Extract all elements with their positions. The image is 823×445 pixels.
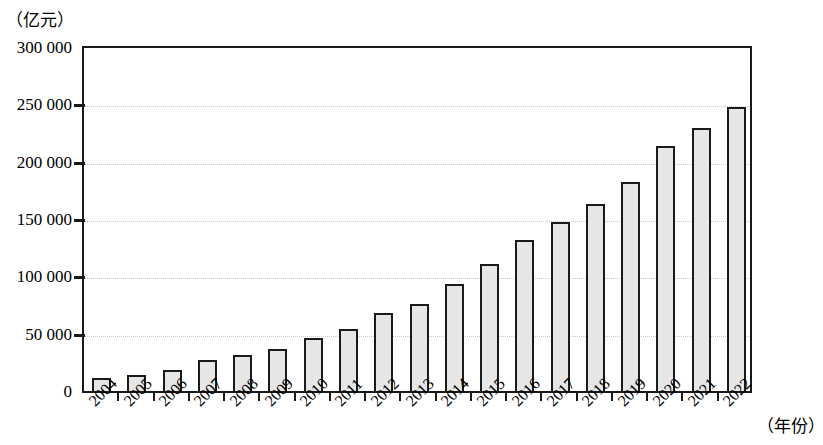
bar	[480, 264, 499, 393]
y-axis-tick-label: 250 000	[17, 96, 72, 113]
y-axis-tick	[74, 219, 85, 222]
bar	[621, 182, 640, 393]
y-axis-tick	[74, 162, 85, 165]
bar	[515, 240, 534, 393]
bar	[692, 128, 711, 393]
bar	[551, 222, 570, 393]
y-axis-tick-label: 50 000	[25, 326, 72, 343]
y-axis-tick-label: 200 000	[17, 154, 72, 171]
bar	[727, 107, 746, 393]
y-axis-tick-label: 0	[64, 383, 73, 400]
x-axis-title: （年份）	[757, 412, 823, 437]
y-axis-tick-label: 300 000	[17, 39, 72, 56]
y-axis-tick-labels: 050 000100 000150 000200 000250 000300 0…	[0, 0, 72, 445]
bar	[586, 204, 605, 393]
y-axis-tick	[74, 276, 85, 279]
bars-layer	[84, 48, 754, 395]
y-axis-tick-label: 100 000	[17, 268, 72, 285]
y-axis-tick-label: 150 000	[17, 211, 72, 228]
plot-area	[82, 46, 752, 393]
bar-chart-figure: （亿元） 050 000100 000150 000200 000250 000…	[0, 0, 823, 445]
bar	[656, 146, 675, 393]
y-axis-tick	[74, 104, 85, 107]
x-axis-tick-labels: 2004200520062007200820092010201120122013…	[82, 398, 752, 445]
y-axis-tick	[74, 334, 85, 337]
